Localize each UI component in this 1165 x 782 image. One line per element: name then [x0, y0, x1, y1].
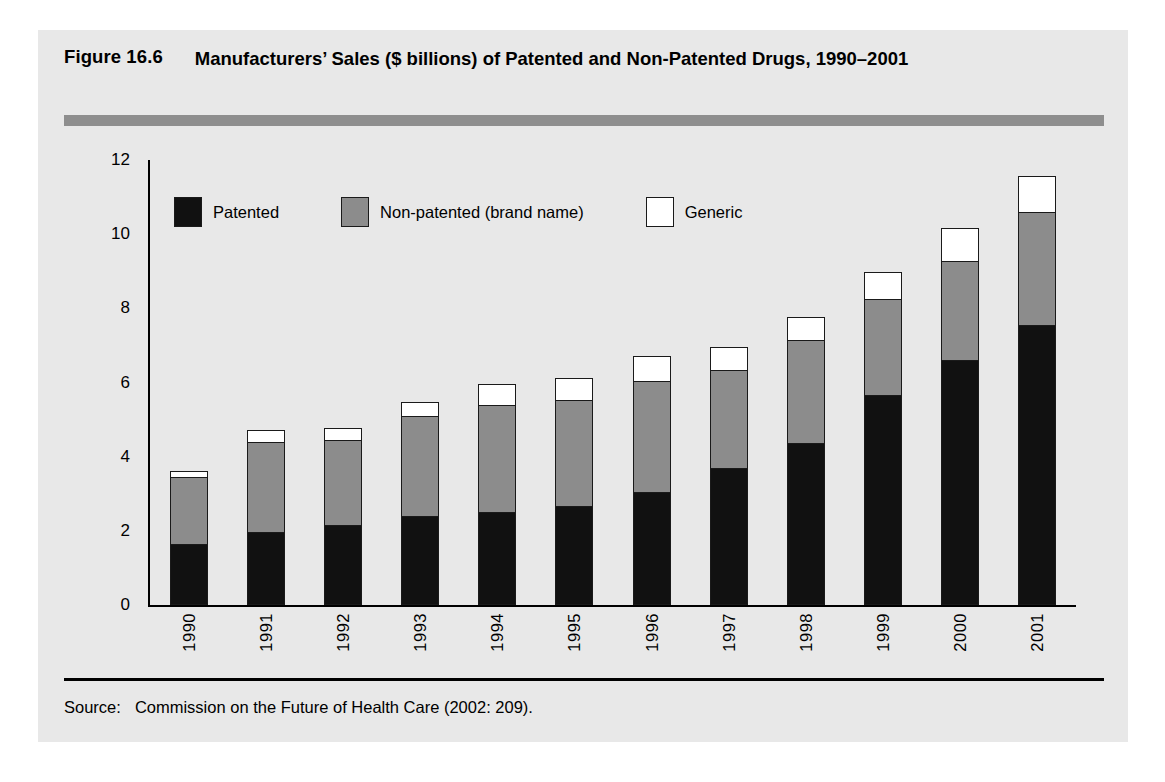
- bar-slot: [922, 160, 999, 605]
- bar-stack-2000[interactable]: [941, 228, 979, 605]
- bar-stack-1999[interactable]: [864, 272, 902, 605]
- bar-segment-patented: [402, 517, 438, 604]
- legend-item-generic[interactable]: Generic: [646, 197, 743, 227]
- bar-segment-patented: [556, 507, 592, 604]
- y-axis-tick-label: 8: [121, 298, 130, 318]
- source-note: Source: Commission on the Future of Heal…: [64, 698, 533, 717]
- legend-label: Generic: [685, 203, 743, 222]
- bar-segment-generic: [634, 357, 670, 382]
- bar-slot: [999, 160, 1076, 605]
- bar-stack-1993[interactable]: [401, 402, 439, 605]
- y-axis-tick-label: 10: [111, 224, 130, 244]
- bar-segment-generic: [479, 385, 515, 407]
- chart-plot-area: 024681012 199019911992199319941995199619…: [64, 135, 1104, 635]
- bar-segment-patented: [788, 444, 824, 604]
- source-rule: [64, 678, 1104, 681]
- source-keyword: Source:: [64, 698, 121, 717]
- bar-stack-1992[interactable]: [324, 428, 362, 605]
- bar-segment-patented: [479, 513, 515, 604]
- legend-label: Patented: [213, 203, 279, 222]
- x-axis-tick-label: 1999: [874, 613, 893, 652]
- bar-segment-nonpat: [248, 443, 284, 533]
- x-axis-tick-label: 2001: [1028, 613, 1047, 652]
- bar-segment-nonpat: [402, 417, 438, 516]
- figure-number: Figure 16.6: [64, 46, 163, 68]
- x-axis-tick-label: 2000: [951, 613, 970, 652]
- bar-segment-generic: [788, 318, 824, 341]
- bar-segment-patented: [865, 396, 901, 604]
- bar-segment-patented: [1019, 326, 1055, 604]
- x-axis-tick-label: 1997: [720, 613, 739, 652]
- x-axis-line: [148, 605, 1076, 607]
- bar-segment-patented: [325, 526, 361, 604]
- bar-segment-nonpat: [942, 262, 978, 361]
- bar-segment-patented: [171, 545, 207, 604]
- bar-segment-nonpat: [171, 478, 207, 544]
- title-rule-bar: [64, 115, 1104, 126]
- bar-segment-nonpat: [479, 406, 515, 513]
- bar-segment-nonpat: [1019, 213, 1055, 325]
- bar-stack-1990[interactable]: [170, 471, 208, 605]
- bar-segment-generic: [402, 403, 438, 417]
- y-axis-tick-label: 0: [121, 595, 130, 615]
- x-axis-tick-label: 1991: [257, 613, 276, 652]
- bar-segment-generic: [325, 429, 361, 441]
- bar-segment-nonpat: [711, 371, 747, 469]
- bar-segment-generic: [942, 229, 978, 262]
- x-axis-tick-label: 1990: [180, 613, 199, 652]
- legend-swatch-patented-icon: [174, 197, 202, 227]
- x-axis-tick-label: 1998: [797, 613, 816, 652]
- bar-segment-patented: [711, 469, 747, 605]
- x-axis-tick-label: 1994: [488, 613, 507, 652]
- bar-segment-nonpat: [788, 341, 824, 444]
- y-axis-tick-label: 2: [121, 521, 130, 541]
- bar-segment-nonpat: [634, 382, 670, 493]
- bar-segment-nonpat: [865, 300, 901, 396]
- x-axis-tick-label: 1996: [643, 613, 662, 652]
- legend-swatch-generic-icon: [646, 197, 674, 227]
- bar-stack-1994[interactable]: [478, 384, 516, 605]
- bar-segment-nonpat: [325, 441, 361, 526]
- y-axis-tick-label: 4: [121, 447, 130, 467]
- bar-segment-generic: [711, 348, 747, 371]
- y-axis-tick-label: 6: [121, 373, 130, 393]
- legend-item-patented[interactable]: Patented: [174, 197, 279, 227]
- figure-title: Manufacturers’ Sales ($ billions) of Pat…: [195, 46, 908, 72]
- y-axis-tick-label: 12: [111, 150, 130, 170]
- chart-legend: PatentedNon-patented (brand name)Generic: [174, 197, 804, 227]
- legend-label: Non-patented (brand name): [380, 203, 584, 222]
- bar-segment-generic: [556, 379, 592, 401]
- bar-stack-2001[interactable]: [1018, 176, 1056, 605]
- bar-stack-1991[interactable]: [247, 430, 285, 605]
- y-axis-tick-labels: 024681012: [64, 160, 142, 607]
- bar-segment-generic: [248, 431, 284, 443]
- legend-item-non_patented[interactable]: Non-patented (brand name): [341, 197, 584, 227]
- source-citation: Commission on the Future of Health Care …: [135, 698, 533, 717]
- x-axis-tick-label: 1992: [334, 613, 353, 652]
- figure-panel: Figure 16.6 Manufacturers’ Sales ($ bill…: [38, 30, 1128, 742]
- bar-segment-patented: [942, 361, 978, 604]
- x-axis-tick-label: 1995: [565, 613, 584, 652]
- bar-stack-1997[interactable]: [710, 347, 748, 605]
- bar-segment-patented: [634, 493, 670, 604]
- legend-swatch-non_patented-icon: [341, 197, 369, 227]
- bar-stack-1996[interactable]: [633, 356, 671, 605]
- bar-slot: [845, 160, 922, 605]
- bar-segment-generic: [1019, 177, 1055, 213]
- bar-stack-1995[interactable]: [555, 378, 593, 605]
- bar-segment-generic: [865, 273, 901, 300]
- bar-segment-nonpat: [556, 401, 592, 508]
- bar-segment-patented: [248, 533, 284, 604]
- x-axis-tick-label: 1993: [411, 613, 430, 652]
- bar-segment-generic: [171, 472, 207, 479]
- bar-stack-1998[interactable]: [787, 317, 825, 605]
- figure-title-block: Figure 16.6 Manufacturers’ Sales ($ bill…: [64, 46, 1104, 72]
